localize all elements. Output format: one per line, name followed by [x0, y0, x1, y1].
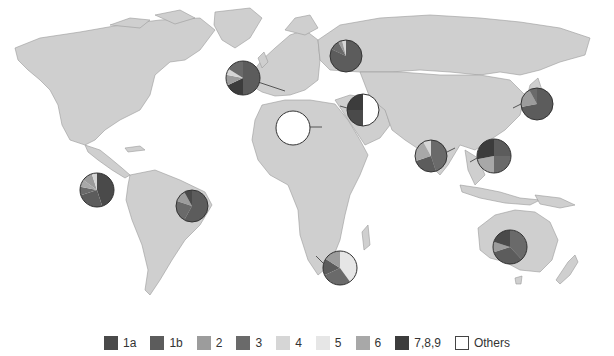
swatch-2: [197, 336, 211, 350]
swatch-others: [455, 336, 469, 350]
greenland: [214, 8, 262, 48]
caribbean: [125, 146, 145, 152]
swatch-3: [236, 336, 250, 350]
world-map: [0, 0, 614, 320]
legend-item-3: 3: [236, 336, 262, 350]
legend-label: Others: [474, 336, 510, 350]
scandinavia: [285, 15, 318, 35]
swatch-1b: [150, 336, 164, 350]
legend-item-1b: 1b: [150, 336, 182, 350]
legend-item-6: 6: [356, 336, 382, 350]
swatch-6: [356, 336, 370, 350]
pie-north-america: [80, 173, 114, 207]
legend-label: 1a: [123, 336, 136, 350]
south-america: [126, 170, 212, 295]
legend-item-5: 5: [316, 336, 342, 350]
swatch-5: [316, 336, 330, 350]
pie-russia: [330, 40, 362, 72]
legend-item-1a: 1a: [104, 336, 136, 350]
swatch-789: [395, 336, 409, 350]
legend-label: 1b: [169, 336, 182, 350]
madagascar: [362, 225, 370, 250]
tasmania: [515, 276, 522, 284]
swatch-4: [276, 336, 290, 350]
legend-label: 6: [375, 336, 382, 350]
legend-label: 7,8,9: [414, 336, 441, 350]
legend-item-789: 7,8,9: [395, 336, 441, 350]
legend-label: 4: [295, 336, 302, 350]
legend-item-4: 4: [276, 336, 302, 350]
pie-south-america: [176, 190, 208, 222]
swatch-1a: [104, 336, 118, 350]
legend-label: 5: [335, 336, 342, 350]
legend-item-others: Others: [455, 336, 510, 350]
pie-australia: [493, 230, 527, 264]
legend: 1a 1b 2 3 4 5 6 7,8,9 Others: [0, 333, 614, 353]
north-america: [15, 18, 215, 145]
legend-label: 3: [255, 336, 262, 350]
legend-item-2: 2: [197, 336, 223, 350]
indonesia: [460, 185, 540, 205]
new-zealand: [556, 255, 578, 284]
central-america: [85, 145, 130, 178]
new-guinea: [535, 195, 575, 208]
legend-label: 2: [216, 336, 223, 350]
